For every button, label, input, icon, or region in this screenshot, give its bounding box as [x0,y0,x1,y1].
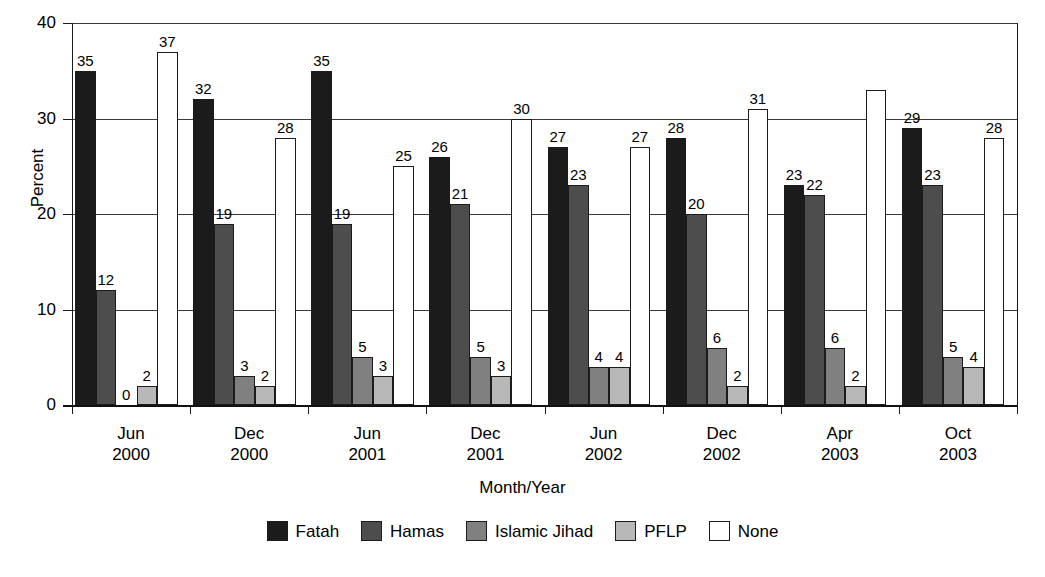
bar [845,386,866,405]
bar [804,195,825,405]
bar [193,99,214,405]
x-axis-title: Month/Year [0,478,1045,498]
bar [686,214,707,405]
legend-label: Hamas [390,523,444,540]
legend-item[interactable]: None [709,521,779,541]
legend-item[interactable]: Fatah [267,521,339,541]
x-category-label: Jun2001 [307,423,427,465]
y-axis-line [72,23,73,405]
bar-value-label: 28 [974,120,1014,135]
y-tick-label: 0 [16,396,56,413]
bar [984,138,1005,405]
legend-label: Fatah [296,523,339,540]
bar [866,90,887,405]
bar [666,138,687,405]
x-category-label: Jun2000 [71,423,191,465]
legend-swatch-icon [466,521,487,541]
legend-label: Islamic Jihad [495,523,593,540]
legend-swatch-icon [709,521,730,541]
legend-swatch-icon [615,521,636,541]
legend-item[interactable]: Islamic Jihad [466,521,593,541]
x-category-month: Jun [354,424,381,443]
legend-label: None [738,523,779,540]
x-category-month: Dec [470,424,500,443]
x-category-label: Dec2001 [425,423,545,465]
bar [75,71,96,405]
bar-value-label: 5 [343,339,383,354]
bar-value-label: 28 [265,120,305,135]
bar [157,52,178,405]
plot-right-border [1017,23,1018,405]
x-category-month: Oct [945,424,971,443]
bar-value-label: 37 [147,34,187,49]
x-category-label: Jun2002 [544,423,664,465]
x-category-month: Dec [707,424,737,443]
legend-swatch-icon [361,521,382,541]
bar [609,367,630,405]
y-tick-label: 20 [16,205,56,222]
x-category-year: 2001 [307,444,427,465]
x-category-year: 2002 [662,444,782,465]
x-category-year: 2000 [189,444,309,465]
x-category-month: Jun [117,424,144,443]
bar [511,119,532,406]
x-axis-line [63,405,1018,407]
bar-value-label: 32 [183,81,223,96]
bar-value-label: 21 [440,186,480,201]
bar-value-label: 26 [420,139,460,154]
x-category-label: Dec2002 [662,423,782,465]
bar-value-label: 27 [538,129,578,144]
bar [393,166,414,405]
bar-value-label: 19 [322,206,362,221]
y-tick-label: 40 [16,14,56,31]
bar-value-label: 30 [502,101,542,116]
bar-value-label: 27 [620,129,660,144]
x-category-month: Apr [827,424,853,443]
x-tick-mark [426,405,427,414]
bar-value-label: 6 [815,330,855,345]
bar [727,386,748,405]
bar [332,224,353,405]
x-tick-mark [190,405,191,414]
bar-value-label: 12 [86,272,126,287]
bar [589,367,610,405]
x-tick-mark [545,405,546,414]
x-category-month: Jun [590,424,617,443]
bar [548,147,569,405]
bar [373,376,394,405]
bar-value-label: 29 [892,110,932,125]
y-tick-label: 10 [16,301,56,318]
x-category-year: 2003 [780,444,900,465]
bar [922,185,943,405]
bar [491,376,512,405]
bar [255,386,276,405]
x-tick-mark [1017,405,1018,414]
bar-value-label: 23 [558,167,598,182]
x-category-label: Dec2000 [189,423,309,465]
bar [137,386,158,405]
x-category-year: 2001 [425,444,545,465]
bar-value-label: 35 [65,53,105,68]
bar-value-label: 6 [697,330,737,345]
x-category-year: 2003 [898,444,1018,465]
x-tick-mark [899,405,900,414]
bar-value-label: 23 [913,167,953,182]
bar-value-label: 19 [204,206,244,221]
bar-value-label: 20 [676,196,716,211]
bar [450,204,471,405]
legend-item[interactable]: PFLP [615,521,687,541]
legend-item[interactable]: Hamas [361,521,444,541]
x-tick-mark [663,405,664,414]
bar-value-label: 28 [656,120,696,135]
bar [214,224,235,405]
x-tick-mark [72,405,73,414]
legend-swatch-icon [267,521,288,541]
gridline [72,23,1017,24]
bar [568,185,589,405]
bar [311,71,332,405]
bar [748,109,769,405]
bar-value-label: 35 [302,53,342,68]
bar [963,367,984,405]
x-category-year: 2000 [71,444,191,465]
x-category-label: Oct2003 [898,423,1018,465]
